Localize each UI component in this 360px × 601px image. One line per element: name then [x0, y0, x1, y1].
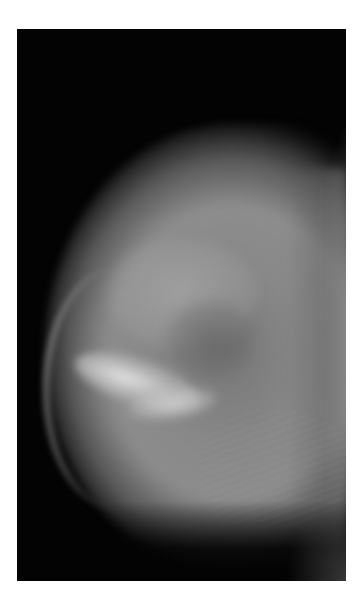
fibroglandular-density-upper — [107, 239, 257, 349]
breast-tissue — [45, 124, 346, 564]
skin-line — [43, 269, 189, 509]
mammogram-image — [17, 29, 346, 581]
inferior-background — [17, 501, 346, 581]
dense-tissue-streak-secondary — [125, 383, 218, 425]
fibrous-strands — [197, 409, 346, 529]
dense-tissue-streak — [68, 340, 206, 423]
chest-wall-band — [286, 169, 346, 569]
breast-tissue-core — [77, 179, 346, 539]
inframammary-fold-shadow — [286, 491, 346, 581]
page — [0, 0, 360, 601]
darker-lobular-area — [167, 299, 257, 379]
pectoral-muscle-region — [17, 29, 346, 581]
